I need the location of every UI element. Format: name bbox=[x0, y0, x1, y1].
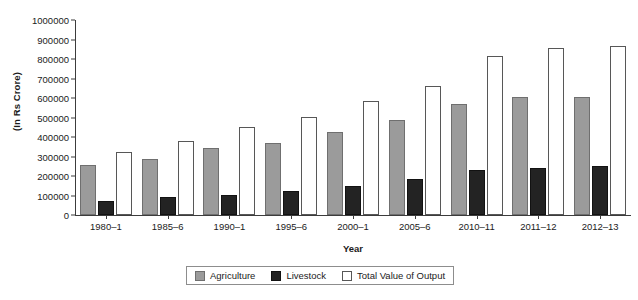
legend-item: Livestock bbox=[271, 270, 326, 281]
bar-livestock bbox=[221, 195, 237, 215]
bar-chart: (In Rs Crore) 01000002000003000004000005… bbox=[0, 0, 638, 300]
y-tick-label: 1000000 bbox=[32, 15, 75, 26]
bar-group: 1995–6 bbox=[260, 20, 322, 215]
bar-agriculture bbox=[327, 132, 343, 215]
y-axis-title: (In Rs Crore) bbox=[11, 42, 22, 162]
x-tick-label: 2012–13 bbox=[569, 221, 631, 232]
x-tick-mark bbox=[291, 215, 292, 219]
bar-agriculture bbox=[512, 97, 528, 215]
y-tick-label: 500000 bbox=[37, 112, 75, 123]
bar-group: 2010–11 bbox=[446, 20, 508, 215]
legend-swatch-agri bbox=[195, 271, 205, 281]
x-tick-label: 2010–11 bbox=[446, 221, 508, 232]
y-tick-label: 700000 bbox=[37, 73, 75, 84]
legend-item: Agriculture bbox=[195, 270, 255, 281]
x-tick-label: 1990–1 bbox=[199, 221, 261, 232]
x-tick-mark bbox=[538, 215, 539, 219]
x-tick-label: 1995–6 bbox=[260, 221, 322, 232]
bar-livestock bbox=[345, 186, 361, 215]
bar-total-value-of-output bbox=[425, 86, 441, 215]
bar-total-value-of-output bbox=[239, 127, 255, 215]
chart-legend: AgricultureLivestockTotal Value of Outpu… bbox=[186, 266, 454, 285]
bar-livestock bbox=[98, 201, 114, 215]
bar-agriculture bbox=[142, 159, 158, 215]
bar-total-value-of-output bbox=[548, 48, 564, 215]
x-tick-mark bbox=[168, 215, 169, 219]
x-tick-label: 2005–6 bbox=[384, 221, 446, 232]
bar-groups: 1980–11985–61990–11995–62000–12005–62010… bbox=[75, 20, 631, 215]
bar-total-value-of-output bbox=[363, 101, 379, 215]
x-tick-label: 1980–1 bbox=[75, 221, 137, 232]
bar-livestock bbox=[283, 191, 299, 215]
y-tick-label: 300000 bbox=[37, 151, 75, 162]
y-tick-label: 200000 bbox=[37, 171, 75, 182]
bar-total-value-of-output bbox=[610, 46, 626, 215]
bar-agriculture bbox=[451, 104, 467, 215]
bar-total-value-of-output bbox=[178, 141, 194, 215]
legend-label: Total Value of Output bbox=[357, 270, 445, 281]
bar-total-value-of-output bbox=[487, 56, 503, 215]
x-tick-mark bbox=[415, 215, 416, 219]
bar-agriculture bbox=[80, 165, 96, 215]
bar-total-value-of-output bbox=[116, 152, 132, 215]
bar-group: 2011–12 bbox=[507, 20, 569, 215]
legend-label: Agriculture bbox=[210, 270, 255, 281]
legend-item: Total Value of Output bbox=[342, 270, 445, 281]
x-tick-label: 2011–12 bbox=[507, 221, 569, 232]
bar-livestock bbox=[407, 179, 423, 215]
plot-area: 0100000200000300000400000500000600000700… bbox=[75, 20, 631, 216]
x-tick-mark bbox=[353, 215, 354, 219]
bar-group: 1980–1 bbox=[75, 20, 137, 215]
bar-agriculture bbox=[389, 120, 405, 215]
x-tick-mark bbox=[106, 215, 107, 219]
y-tick-label: 600000 bbox=[37, 93, 75, 104]
bar-livestock bbox=[592, 166, 608, 215]
bar-agriculture bbox=[203, 148, 219, 215]
x-tick-mark bbox=[477, 215, 478, 219]
bar-group: 1990–1 bbox=[199, 20, 261, 215]
bar-group: 2005–6 bbox=[384, 20, 446, 215]
bar-group: 1985–6 bbox=[137, 20, 199, 215]
x-axis-title: Year bbox=[75, 243, 631, 254]
bar-group: 2012–13 bbox=[569, 20, 631, 215]
y-tick-label: 900000 bbox=[37, 34, 75, 45]
y-tick-label: 800000 bbox=[37, 54, 75, 65]
legend-swatch-total bbox=[342, 271, 352, 281]
y-tick-label: 100000 bbox=[37, 190, 75, 201]
x-tick-label: 1985–6 bbox=[137, 221, 199, 232]
x-tick-mark bbox=[600, 215, 601, 219]
bar-agriculture bbox=[265, 143, 281, 215]
bar-livestock bbox=[530, 168, 546, 215]
bar-total-value-of-output bbox=[301, 117, 317, 215]
legend-swatch-live bbox=[271, 271, 281, 281]
bar-agriculture bbox=[574, 97, 590, 215]
y-tick-label: 400000 bbox=[37, 132, 75, 143]
bar-group: 2000–1 bbox=[322, 20, 384, 215]
legend-label: Livestock bbox=[286, 270, 326, 281]
bar-livestock bbox=[469, 170, 485, 215]
x-tick-label: 2000–1 bbox=[322, 221, 384, 232]
bar-livestock bbox=[160, 197, 176, 215]
x-tick-mark bbox=[229, 215, 230, 219]
